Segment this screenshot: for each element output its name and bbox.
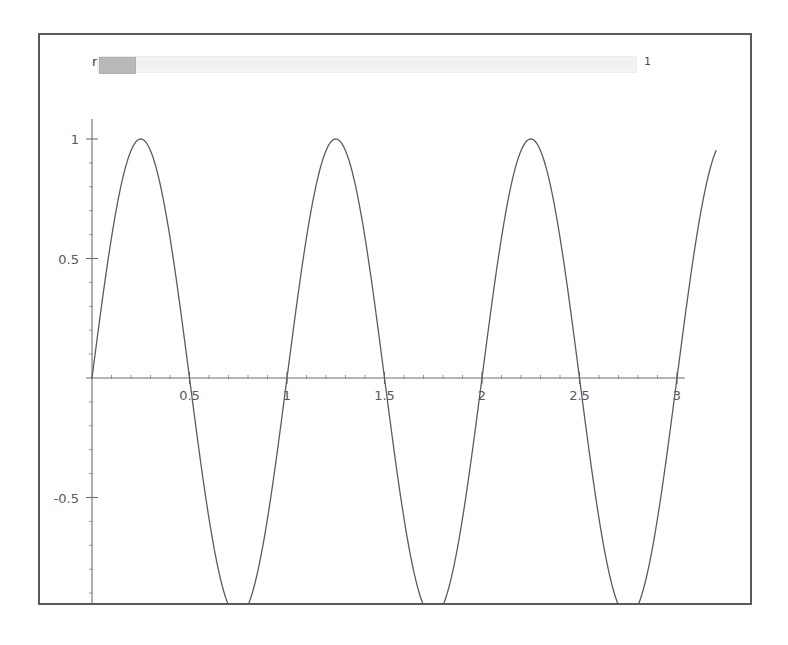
- manipulate-panel: n 1 0.511.522.5310.5-0.5-1: [38, 33, 752, 605]
- y-axis-tick-label: 1: [71, 132, 79, 147]
- x-axis-tick-label: 1.5: [374, 388, 395, 403]
- y-axis-tick-label: -0.5: [54, 491, 79, 506]
- slider-thumb[interactable]: [99, 57, 136, 74]
- y-axis-tick-label: 0.5: [58, 252, 79, 267]
- screenshot-root: n 1 0.511.522.5310.5-0.5-1: [0, 0, 788, 645]
- n-slider[interactable]: [97, 56, 637, 73]
- x-axis-tick-label: 2.5: [569, 388, 590, 403]
- plot-area: 0.511.522.5310.5-0.5-1: [40, 79, 750, 603]
- slider-value-readout: 1: [644, 55, 651, 68]
- sine-curve-path: [92, 139, 716, 603]
- x-axis-tick-label: 0.5: [179, 388, 200, 403]
- slider-track-fill: [98, 57, 636, 72]
- slider-control-row: n 1: [40, 45, 750, 79]
- sine-plot-svg: 0.511.522.5310.5-0.5-1: [40, 79, 750, 603]
